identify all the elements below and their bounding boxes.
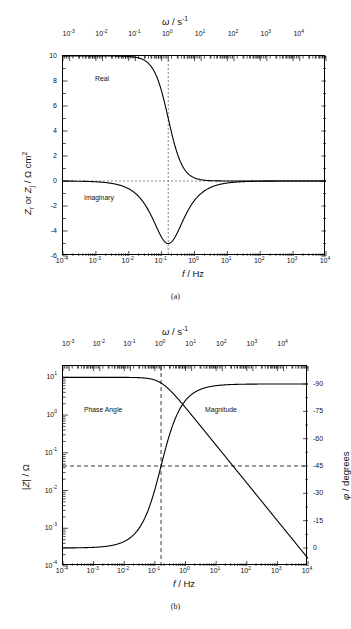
panel-a-y-tick--6: -6 xyxy=(41,252,57,259)
panel-b-caption: (b) xyxy=(0,602,351,611)
panel-a-bottom-tick-0: 100 xyxy=(188,257,199,264)
panel-b-right-y-tick--75: -75 xyxy=(313,407,323,414)
panel-a-bottom-tick-4: 104 xyxy=(320,257,331,264)
panel-b-top-tick--2: 10-2 xyxy=(93,340,105,347)
panel-a-y-tick-10: 10 xyxy=(41,52,57,59)
panel-b: ω / s-1 10-310-210-1100101102103104 1011… xyxy=(0,310,351,625)
panel-b-top-axis-title: ω / s-1 xyxy=(162,326,188,337)
panel-a-top-axis-title: ω / s-1 xyxy=(162,16,188,27)
panel-b-right-y-axis-title: φ / degrees xyxy=(340,452,351,500)
panel-a-caption: (a) xyxy=(0,292,351,301)
panel-b-bottom-tick-3: 103 xyxy=(271,567,282,574)
panel-a-top-tick-1: 101 xyxy=(195,30,206,37)
panel-a-y-tick-8: 8 xyxy=(41,77,57,84)
panel-b-top-tick-4: 104 xyxy=(277,340,288,347)
panel-b-x-axis-title: f / Hz xyxy=(173,578,195,589)
panel-b-magnitude-curve xyxy=(63,377,308,558)
panel-a-bottom-tick--2: 10-2 xyxy=(122,257,134,264)
panel-a-x-axis-unit: / Hz xyxy=(185,268,205,279)
panel-b-left-y-tick--4: 10-4 xyxy=(37,562,57,569)
panel-b-left-y-tick--3: 10-3 xyxy=(37,524,57,531)
impedance-figure: ω / s-1 10-310-210-1100101102103104 1086… xyxy=(0,0,351,629)
panel-b-left-y-tick--2: 10-2 xyxy=(37,486,57,493)
panel-a-x-axis-title: f / Hz xyxy=(182,268,204,279)
panel-a-bottom-tick-2: 102 xyxy=(254,257,265,264)
panel-b-bottom-tick-0: 100 xyxy=(179,567,190,574)
panel-b-right-y-tick--30: -30 xyxy=(313,489,323,496)
panel-a-imaginary-curve xyxy=(63,181,326,244)
imaginary-curve-label: Imaginary xyxy=(84,194,114,201)
panel-b-bottom-tick--2: 10-2 xyxy=(117,567,129,574)
panel-a-y-tick-4: 4 xyxy=(41,127,57,134)
panel-a-y-tick-2: 2 xyxy=(41,152,57,159)
panel-b-bottom-tick-4: 104 xyxy=(302,567,313,574)
panel-b-top-tick-2: 102 xyxy=(216,340,227,347)
panel-b-x-axis-unit: / Hz xyxy=(176,578,196,589)
panel-a-bottom-tick--1: 10-1 xyxy=(154,257,166,264)
panel-a-top-tick-4: 104 xyxy=(293,30,304,37)
panel-a-y-tick--4: -4 xyxy=(41,227,57,234)
panel-a-bottom-tick--4: 10-4 xyxy=(56,257,68,264)
panel-b-left-y-tick-1: 101 xyxy=(37,373,57,380)
panel-b-left-y-tick--1: 10-1 xyxy=(37,448,57,455)
magnitude-label: Magnitude xyxy=(205,406,237,413)
panel-a-top-tick--3: 10-3 xyxy=(62,30,74,37)
panel-a-plot-area xyxy=(62,55,325,255)
panel-b-right-y-tick-0: 0 xyxy=(313,544,317,551)
panel-b-left-y-tick-0: 100 xyxy=(37,411,57,418)
panel-b-bottom-tick-1: 101 xyxy=(210,567,221,574)
panel-b-bottom-tick-2: 102 xyxy=(240,567,251,574)
panel-b-right-y-tick--45: -45 xyxy=(313,462,323,469)
panel-a: ω / s-1 10-310-210-1100101102103104 1086… xyxy=(0,0,351,315)
panel-a-y-axis-title: Zr or Zj / Ω cm2 xyxy=(22,152,35,215)
panel-b-plot-area xyxy=(62,365,307,565)
panel-b-right-y-tick--60: -60 xyxy=(313,434,323,441)
panel-b-right-y-tick--90: -90 xyxy=(313,380,323,387)
panel-a-y-tick-6: 6 xyxy=(41,102,57,109)
panel-b-top-tick--3: 10-3 xyxy=(62,340,74,347)
panel-a-top-tick--2: 10-2 xyxy=(95,30,107,37)
panel-b-right-y-tick--15: -15 xyxy=(313,516,323,523)
panel-a-top-tick-3: 103 xyxy=(261,30,272,37)
panel-b-top-tick-3: 103 xyxy=(247,340,258,347)
panel-a-bottom-tick-1: 101 xyxy=(221,257,232,264)
phase-angle-label: Phase Angle xyxy=(84,406,122,413)
panel-a-top-tick--1: 10-1 xyxy=(128,30,140,37)
panel-b-top-axis-exponent: -1 xyxy=(182,325,188,332)
panel-b-bottom-tick--1: 10-1 xyxy=(148,567,160,574)
panel-b-top-tick-0: 100 xyxy=(155,340,166,347)
panel-b-curves xyxy=(63,366,308,566)
panel-b-top-tick-1: 101 xyxy=(185,340,196,347)
panel-b-top-tick--1: 10-1 xyxy=(123,340,135,347)
panel-a-bottom-tick--3: 10-3 xyxy=(89,257,101,264)
panel-b-bottom-tick--3: 10-3 xyxy=(86,567,98,574)
panel-a-y-tick--2: -2 xyxy=(41,202,57,209)
panel-a-y-tick-0: 0 xyxy=(41,177,57,184)
panel-a-bottom-tick-3: 103 xyxy=(287,257,298,264)
panel-a-top-axis-exponent: -1 xyxy=(182,15,188,22)
panel-b-left-y-axis-title: |Z| / Ω xyxy=(20,464,31,490)
real-curve-label: Real xyxy=(95,75,109,82)
panel-a-top-tick-0: 100 xyxy=(162,30,173,37)
panel-b-bottom-tick--4: 10-4 xyxy=(56,567,68,574)
panel-a-top-tick-2: 102 xyxy=(228,30,239,37)
panel-a-curves xyxy=(63,56,326,256)
